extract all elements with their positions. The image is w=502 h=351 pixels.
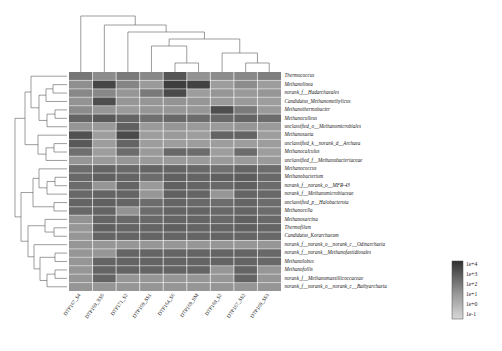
colorbar-tick-label: 1e+1 (466, 291, 477, 297)
colorbar-tick-label: 1e+0 (466, 301, 477, 307)
heatmap-cell (69, 106, 93, 115)
heatmap-cell (163, 89, 187, 98)
heatmap-cell (69, 249, 93, 258)
heatmap-cell (210, 148, 234, 157)
heatmap-cell (234, 232, 258, 241)
heatmap-cell (210, 207, 234, 216)
heatmap-cell (187, 156, 211, 165)
heatmap-cell (257, 72, 281, 81)
heatmap-cell (116, 257, 140, 266)
heatmap-cell (187, 249, 211, 258)
column-label-group: DTP167_S4DTP169_XS5DTP171_S2DTP169_SS1DT… (62, 292, 270, 320)
dendrogram-link (45, 219, 67, 232)
dendrogram-link (54, 144, 67, 152)
heatmap-cell (140, 148, 164, 157)
column-dendrogram (81, 16, 269, 72)
heatmap-cell (93, 106, 117, 115)
row-label: unclassified_p__Halobacterota (285, 199, 349, 205)
heatmap-cell (210, 257, 234, 266)
heatmap-cell (93, 283, 117, 292)
heatmap-cell (116, 224, 140, 233)
heatmap-cell (234, 198, 258, 207)
heatmap-cell (210, 240, 234, 249)
row-label: Methanocalculus (284, 148, 320, 154)
row-label: Candidatus_Methanomethylicus (285, 98, 351, 104)
heatmap-cell (187, 80, 211, 89)
heatmap-cell (140, 89, 164, 98)
heatmap-cell (116, 249, 140, 258)
heatmap-cell (116, 266, 140, 275)
column-label: DTP169_SS1 (131, 292, 153, 319)
heatmap-cell (163, 274, 187, 283)
heatmap-cell (93, 198, 117, 207)
row-label: unclassified_f__Methanobacteriaceae (285, 157, 364, 163)
heatmap-cell (257, 148, 281, 157)
dendrogram-link (55, 177, 67, 185)
heatmap-cell (69, 215, 93, 224)
heatmap-cell (234, 190, 258, 199)
heatmap-cell (210, 249, 234, 258)
row-label: Methanolobus (284, 258, 314, 264)
heatmap-cell (93, 97, 117, 106)
dendrogram-link (55, 110, 67, 118)
heatmap-cell (163, 80, 187, 89)
heatmap-cell (257, 139, 281, 148)
figure-canvas: ThermococcusMethanolineanorank_f__Hadarc… (0, 0, 502, 351)
heatmap-cell (187, 97, 211, 106)
heatmap-cell (69, 198, 93, 207)
heatmap-cell (140, 114, 164, 123)
colorbar-tick-label: 1e+4 (466, 261, 477, 267)
heatmap-cell (187, 240, 211, 249)
heatmap-figure: ThermococcusMethanolineanorank_f__Hadarc… (0, 0, 502, 351)
dendrogram-link (38, 135, 67, 154)
heatmap-cell (210, 182, 234, 191)
row-label: norank_f__norank_o__norank_c__Bathyarcha… (285, 283, 388, 289)
heatmap-cell (210, 232, 234, 241)
heatmap-cell (69, 123, 93, 132)
dendrogram-link (151, 46, 186, 72)
heatmap-cell (69, 257, 93, 266)
heatmap-cell (116, 106, 140, 115)
heatmap-cell (257, 224, 281, 233)
heatmap-cell (234, 165, 258, 174)
heatmap-cell (210, 139, 234, 148)
heatmap-cell (116, 190, 140, 199)
column-label: DTP169_SS3 (249, 292, 271, 319)
heatmap-cell (210, 224, 234, 233)
heatmap-cell (234, 148, 258, 157)
heatmap-cell (187, 215, 211, 224)
row-label: Methanosarcina (284, 216, 319, 222)
heatmap-cell (257, 97, 281, 106)
row-label: Methanosaeta (284, 131, 314, 137)
dendrogram-link (81, 16, 135, 72)
column-label: DTP171_S2 (109, 292, 129, 317)
dendrogram-link (55, 253, 67, 261)
dendrogram-link (33, 178, 54, 206)
heatmap-cell (93, 72, 117, 81)
heatmap-cell (187, 106, 211, 115)
heatmap-cell (140, 207, 164, 216)
heatmap-cell (163, 173, 187, 182)
heatmap-cell (140, 97, 164, 106)
heatmap-cell (69, 173, 93, 182)
row-label: norank_f__Methanomicrobiaceae (285, 190, 355, 196)
heatmap-cell (257, 215, 281, 224)
heatmap-cell-grid (69, 72, 281, 291)
row-label: unclassified_o__Methanomicrobiales (285, 123, 362, 129)
heatmap-cell (187, 148, 211, 157)
heatmap-cell (187, 72, 211, 81)
heatmap-cell (140, 240, 164, 249)
heatmap-cell (93, 123, 117, 132)
heatmap-cell (163, 156, 187, 165)
heatmap-cell (187, 198, 211, 207)
heatmap-cell (140, 156, 164, 165)
colorbar-legend: 1e+41e+31e+21e+11e+01e-1 (452, 261, 477, 319)
heatmap-cell (163, 283, 187, 292)
heatmap-cell (234, 106, 258, 115)
heatmap-cell (257, 173, 281, 182)
heatmap-cell (234, 80, 258, 89)
heatmap-cell (93, 257, 117, 266)
row-label: Thermofilum (285, 224, 312, 230)
heatmap-cell (140, 215, 164, 224)
heatmap-cell (234, 173, 258, 182)
